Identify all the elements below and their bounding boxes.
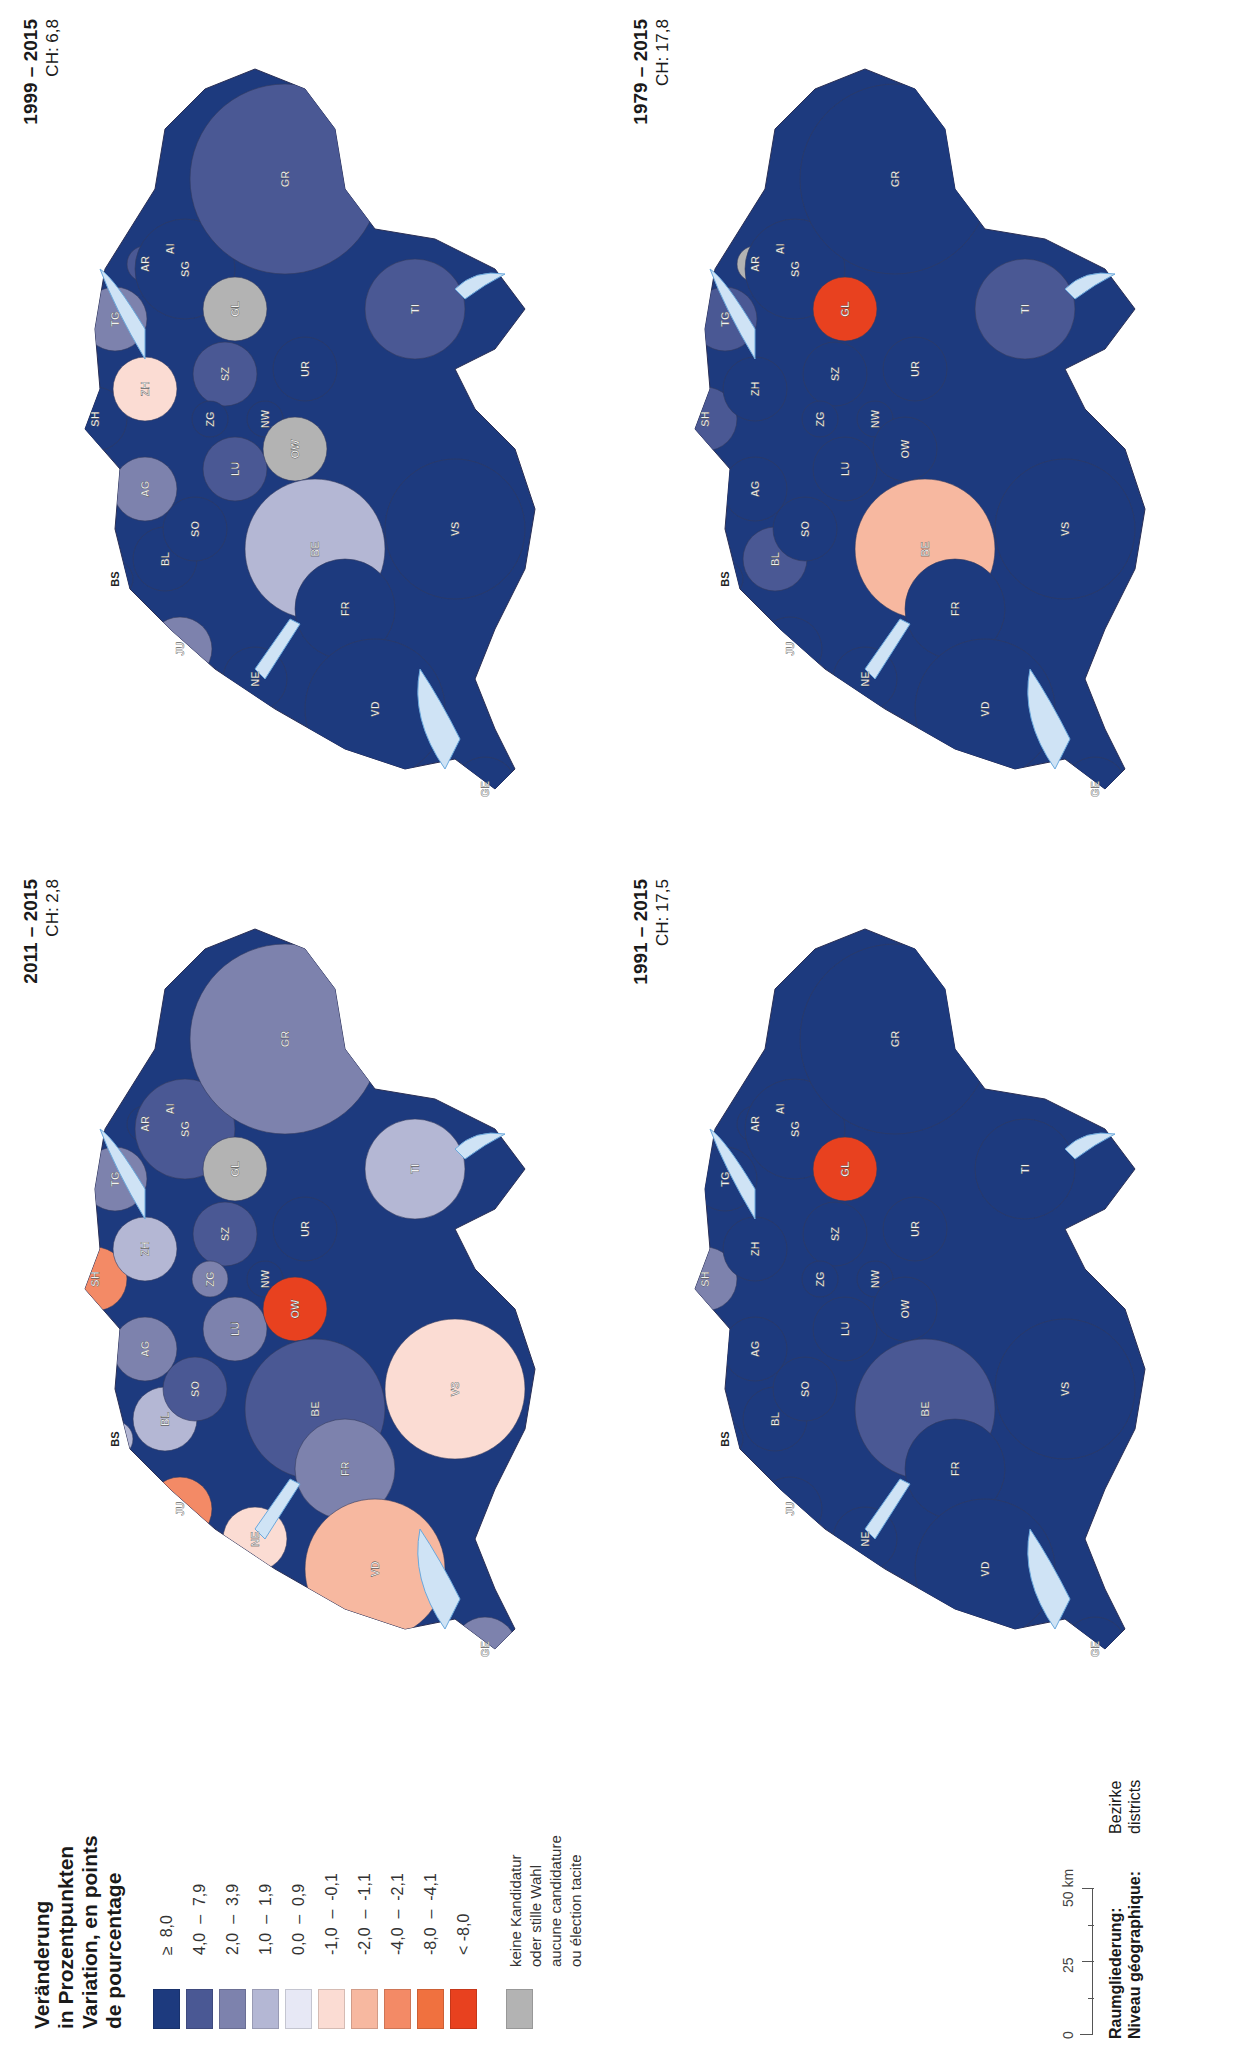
canton-label: BS bbox=[109, 1431, 121, 1446]
legend-swatch bbox=[384, 1989, 411, 2029]
canton-label: SO bbox=[799, 1381, 811, 1397]
niveau-value: districts bbox=[1126, 1780, 1143, 1834]
legend-swatch bbox=[318, 1989, 345, 2029]
canton-label: TG bbox=[719, 311, 731, 326]
canton-label: BS bbox=[719, 1431, 731, 1446]
canton-label: GL bbox=[839, 1161, 851, 1177]
canton-label: BE bbox=[919, 541, 931, 556]
legend-range-label: -4,0 – -2,1 bbox=[389, 1835, 407, 1955]
no-data-line: keine Kandidatur bbox=[506, 1835, 526, 1967]
legend-title-line: Veränderung bbox=[30, 1729, 54, 2029]
switzerland-map: BSBLSOJUAGSHZHTGARAISGGLSZZGLUNWOWURBENE… bbox=[20, 879, 580, 1729]
scale-and-footer: 0 25 50 km Raumgliederung:Bezirke Niveau… bbox=[1060, 1759, 1144, 2039]
canton-label: ZH bbox=[139, 1242, 151, 1257]
map-ch-value: CH: 2,8 bbox=[42, 879, 64, 1729]
canton-label: GL bbox=[839, 301, 851, 317]
legend-title-line: in Prozentpunkten bbox=[54, 1729, 78, 2029]
canton-label: NW bbox=[259, 1269, 271, 1288]
legend-swatch bbox=[219, 1989, 246, 2029]
legend-class: -4,0 – -2,1 bbox=[381, 1729, 414, 2029]
canton-label: GR bbox=[279, 1031, 291, 1048]
map-2011-2015: BSBLSOJUAGSHZHTGARAISGGLSZZGLUNWOWURBENE… bbox=[20, 879, 580, 1729]
canton-label: ZH bbox=[749, 1242, 761, 1257]
canton-label: SZ bbox=[829, 367, 841, 381]
canton-label: FR bbox=[949, 1462, 961, 1477]
map-1979-2015: BSBLSOJUAGSHZHTGARAISGGLSZZGLUNWOWURBENE… bbox=[630, 19, 1220, 869]
legend-swatch bbox=[285, 1989, 312, 2029]
canton-label: SG bbox=[179, 1121, 191, 1137]
canton-label: UR bbox=[299, 1221, 311, 1237]
canton-label: SZ bbox=[829, 1227, 841, 1241]
canton-label: GR bbox=[279, 171, 291, 188]
canton-label: SO bbox=[799, 521, 811, 537]
canton-label: BL bbox=[769, 1411, 781, 1426]
canton-label: AR bbox=[139, 256, 151, 272]
legend-range-label: < -8,0 bbox=[455, 1835, 473, 1955]
canton-label: LU bbox=[229, 1322, 241, 1337]
map-title: 1991 – 2015 CH: 17,5 bbox=[630, 879, 674, 1729]
canton-label: SZ bbox=[219, 1227, 231, 1241]
scale-minor-tick bbox=[1088, 1925, 1094, 1926]
legend-range-label: 1,0 – 1,9 bbox=[257, 1835, 275, 1955]
canton-label: GL bbox=[229, 301, 241, 317]
canton-label: GL bbox=[229, 1161, 241, 1177]
canton-label: AI bbox=[164, 1104, 176, 1115]
map-ch-value: CH: 6,8 bbox=[42, 19, 64, 869]
scale-major-tick bbox=[1082, 1961, 1094, 1962]
scale-tick-label: 50 km bbox=[1060, 1869, 1076, 1907]
legend-swatch bbox=[252, 1989, 279, 2029]
canton-label: VS bbox=[449, 1382, 461, 1397]
canton-label: TI bbox=[409, 1164, 421, 1174]
canton-label: OW bbox=[289, 439, 301, 459]
canton-label: SG bbox=[789, 1121, 801, 1137]
canton-label: GE bbox=[479, 781, 491, 797]
legend-class: < -8,0 bbox=[447, 1729, 480, 2029]
map-title: 2011 – 2015 CH: 2,8 bbox=[20, 879, 64, 1729]
canton-label: ZG bbox=[814, 411, 826, 426]
legend-swatch bbox=[351, 1989, 378, 2029]
legend-range-label: -2,0 – -1,1 bbox=[356, 1835, 374, 1955]
canton-label: SZ bbox=[219, 367, 231, 381]
canton-label: TI bbox=[1019, 1164, 1031, 1174]
legend-swatch bbox=[450, 1989, 477, 2029]
legend: Veränderung in Prozentpunkten Variation,… bbox=[30, 1729, 586, 2029]
canton-label: VD bbox=[979, 701, 991, 716]
legend-class: -2,0 – -1,1 bbox=[348, 1729, 381, 2029]
canton-label: BS bbox=[109, 571, 121, 586]
canton-label: AI bbox=[774, 1104, 786, 1115]
map-period: 1979 – 2015 bbox=[630, 19, 652, 869]
canton-label: UR bbox=[299, 361, 311, 377]
canton-label: NE bbox=[859, 671, 871, 686]
canton-label: ZH bbox=[139, 382, 151, 397]
canton-label: UR bbox=[909, 1221, 921, 1237]
canton-label: ZG bbox=[204, 1271, 216, 1286]
legend-range-label: ≥ 8,0 bbox=[158, 1835, 176, 1955]
canton-label: VS bbox=[1059, 1382, 1071, 1397]
raum-label: Raumgliederung: bbox=[1106, 1834, 1125, 2039]
legend-range-label: 4,0 – 7,9 bbox=[191, 1835, 209, 1955]
legend-title-line: de pourcentage bbox=[102, 1729, 126, 2029]
canton-label: BL bbox=[159, 551, 171, 566]
legend-class: 0,0 – 0,9 bbox=[282, 1729, 315, 2029]
canton-label: SH bbox=[699, 411, 711, 426]
canton-label: NW bbox=[259, 409, 271, 428]
no-data-line: ou élection tacite bbox=[566, 1835, 586, 1967]
canton-label: AI bbox=[774, 244, 786, 255]
canton-label: TI bbox=[1019, 304, 1031, 314]
canton-label: AG bbox=[139, 1341, 151, 1358]
legend-title: Veränderung in Prozentpunkten Variation,… bbox=[30, 1729, 126, 2029]
scale-bar bbox=[1080, 1759, 1094, 2039]
canton-label: ZG bbox=[814, 1271, 826, 1286]
map-title: 1979 – 2015 CH: 17,8 bbox=[630, 19, 674, 869]
scale-tick-label: 25 bbox=[1060, 1957, 1076, 1973]
canton-label: ZG bbox=[204, 411, 216, 426]
scale-labels: 0 25 50 km bbox=[1060, 1759, 1080, 2039]
scale-tick-label: 0 bbox=[1060, 2031, 1076, 2039]
canton-label: LU bbox=[839, 462, 851, 477]
canton-label: SG bbox=[179, 261, 191, 277]
niveau-label: Niveau géographique: bbox=[1125, 1834, 1144, 2039]
switzerland-map: BSBLSOJUAGSHZHTGARAISGGLSZZGLUNWOWURBENE… bbox=[630, 879, 1220, 1729]
canton-label: SH bbox=[699, 1271, 711, 1286]
canton-label: JU bbox=[174, 642, 186, 656]
canton-label: NW bbox=[869, 1269, 881, 1288]
